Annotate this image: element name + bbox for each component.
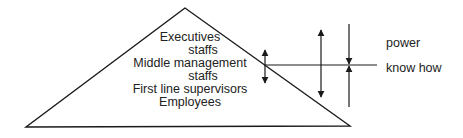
hierarchy-diagram: Executives staffs Middle management staf… xyxy=(0,0,463,138)
know-how-label: know how xyxy=(386,61,442,75)
power-label: power xyxy=(386,36,420,50)
level-employees: Employees xyxy=(150,96,230,110)
